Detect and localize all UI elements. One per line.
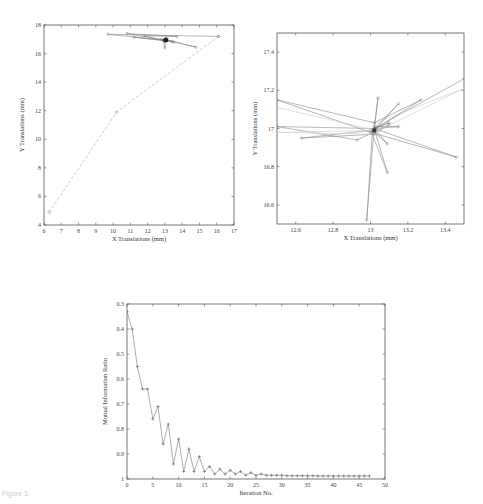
data-marker (363, 474, 366, 477)
data-marker (156, 405, 159, 408)
data-marker (136, 365, 139, 368)
x-tick-label: 13.4 (440, 227, 451, 233)
x-tick-label: 30 (279, 482, 285, 488)
y-tick-label: 1 (121, 476, 124, 482)
data-marker (270, 474, 273, 477)
y-tick-label: 0.7 (117, 401, 125, 407)
data-marker (260, 472, 263, 475)
data-marker (358, 474, 361, 477)
data-marker (146, 387, 149, 390)
x-tick-label: 10 (110, 228, 116, 234)
data-marker (162, 442, 165, 445)
plot-area: 051015202530354045500.30.40.50.60.70.80.… (0, 250, 483, 504)
y-tick-label: 0.9 (117, 451, 125, 457)
plot-frame (44, 25, 234, 225)
data-marker (131, 327, 134, 330)
x-tick-label: 6 (43, 228, 46, 234)
y-tick-label: 16.8 (264, 164, 275, 170)
x-tick-label: 45 (356, 482, 362, 488)
data-marker (177, 437, 180, 440)
data-marker (198, 455, 201, 458)
x-tick-label: 9 (94, 228, 97, 234)
convergence-cluster (163, 38, 168, 43)
figure-caption: Figure 3. (2, 490, 30, 497)
data-marker (352, 474, 355, 477)
data-marker (296, 474, 299, 477)
x-tick-label: 14 (179, 228, 185, 234)
series-group (276, 77, 466, 221)
x-tick-label: 15 (201, 482, 207, 488)
data-marker (280, 474, 283, 477)
x-tick-label: 17 (231, 228, 237, 234)
chart-xy-translation-zoom: 12.612.81313.213.416.616.81717.217.4X Tr… (240, 0, 483, 250)
y-tick-label: 0.5 (117, 351, 125, 357)
plot-area: 12.612.81313.213.416.616.81717.217.4X Tr… (240, 0, 483, 250)
plot-frame (127, 304, 385, 479)
y-tick-label: 0.3 (117, 301, 125, 307)
x-tick-label: 8 (77, 228, 80, 234)
data-marker (141, 387, 144, 390)
x-tick-label: 5 (151, 482, 154, 488)
x-tick-label: 13.2 (403, 227, 414, 233)
y-tick-label: 0.8 (117, 426, 125, 432)
y-tick-label: 14 (35, 79, 41, 85)
chart-xy-translation-full: 678910111213141516174681012141618X Trans… (0, 0, 240, 250)
x-axis-label: X Translations (mm) (112, 235, 166, 243)
data-marker (321, 474, 324, 477)
y-tick-label: 0.4 (117, 326, 125, 332)
series-line (49, 36, 218, 212)
data-marker (172, 462, 175, 465)
data-marker (125, 310, 128, 313)
series-line (277, 79, 464, 220)
x-tick-label: 50 (382, 482, 388, 488)
x-tick-label: 12 (145, 228, 151, 234)
data-marker (301, 474, 304, 477)
series-group (125, 310, 371, 478)
y-tick-label: 12 (35, 108, 41, 114)
x-axis-label: X Translations (mm) (343, 234, 397, 242)
x-tick-label: 11 (127, 228, 133, 234)
data-marker (291, 474, 294, 477)
data-marker (254, 474, 257, 477)
convergence-cluster (372, 128, 376, 132)
x-tick-label: 0 (126, 482, 129, 488)
y-axis-label: Y Translations (mm) (18, 98, 26, 152)
y-tick-label: 17.4 (264, 49, 275, 55)
series-line (127, 312, 370, 477)
data-marker (368, 474, 371, 477)
data-marker (265, 474, 268, 477)
y-tick-label: 8 (38, 165, 41, 171)
data-marker (311, 474, 314, 477)
y-tick-label: 17.2 (264, 87, 275, 93)
data-marker (275, 474, 278, 477)
data-marker (285, 474, 288, 477)
y-axis-label: Y Translations (mm) (251, 102, 259, 156)
data-marker (249, 471, 252, 474)
x-tick-label: 25 (253, 482, 259, 488)
data-marker (187, 447, 190, 450)
x-tick-label: 20 (227, 482, 233, 488)
x-tick-label: 16 (214, 228, 220, 234)
data-marker (306, 474, 309, 477)
data-marker (151, 417, 154, 420)
series-group (48, 32, 220, 214)
data-marker (316, 474, 319, 477)
x-axis-label: Iteration No. (239, 489, 273, 496)
x-tick-label: 13 (368, 227, 374, 233)
x-tick-label: 13 (162, 228, 168, 234)
y-tick-label: 16 (35, 51, 41, 57)
data-marker (192, 470, 195, 473)
x-tick-label: 15 (196, 228, 202, 234)
chart-mutual-information-ratio: 051015202530354045500.30.40.50.60.70.80.… (0, 250, 483, 504)
y-tick-label: 0.6 (117, 376, 125, 382)
data-marker (327, 474, 330, 477)
y-tick-label: 16.6 (264, 202, 275, 208)
x-tick-label: 10 (176, 482, 182, 488)
data-marker (347, 474, 350, 477)
x-tick-label: 12.8 (328, 227, 339, 233)
x-tick-label: 40 (330, 482, 336, 488)
data-marker (342, 474, 345, 477)
x-tick-label: 35 (305, 482, 311, 488)
y-tick-label: 18 (35, 22, 41, 28)
data-marker (337, 474, 340, 477)
